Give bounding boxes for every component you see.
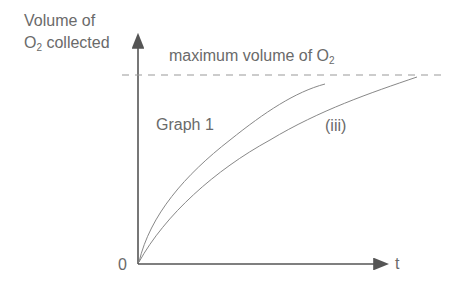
origin-label: 0 [118,257,127,273]
graph-iii-curve [139,77,417,262]
graph-iii-label: (iii) [325,118,346,134]
y-axis-label-line2: O2 collected [24,35,110,53]
x-axis-label: t [395,256,399,272]
graph-1-label: Graph 1 [156,117,214,133]
graph-1-curve [139,84,325,262]
max-volume-label: maximum volume of O2 [169,48,335,66]
y-axis-label-line1: Volume of [24,13,95,29]
